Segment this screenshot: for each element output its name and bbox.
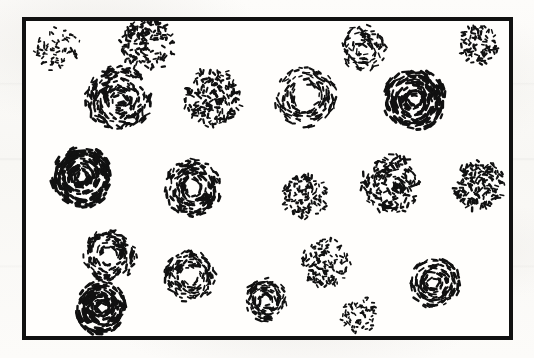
texture-patch — [373, 59, 455, 145]
texture-patch — [275, 167, 335, 231]
texture-patch — [42, 137, 122, 221]
texture-patch — [399, 248, 469, 322]
texture-patch — [156, 242, 224, 314]
texture-patch — [353, 146, 429, 226]
texture-patch — [175, 59, 251, 139]
plate-interior — [26, 21, 509, 336]
texture-patch — [330, 21, 394, 84]
texture-patch — [77, 57, 161, 145]
texture-patch — [446, 152, 509, 222]
texture-patch — [27, 21, 89, 83]
texture-patch — [75, 221, 145, 295]
texture-patch — [236, 270, 296, 334]
figure-root — [0, 0, 534, 358]
texture-patch — [65, 272, 137, 336]
texture-patch — [294, 231, 358, 299]
texture-patch — [265, 56, 347, 142]
texture-patch — [112, 21, 182, 83]
texture-patch — [156, 151, 230, 229]
plate-border — [22, 17, 513, 340]
texture-patch — [333, 289, 385, 336]
texture-patch — [451, 21, 505, 76]
